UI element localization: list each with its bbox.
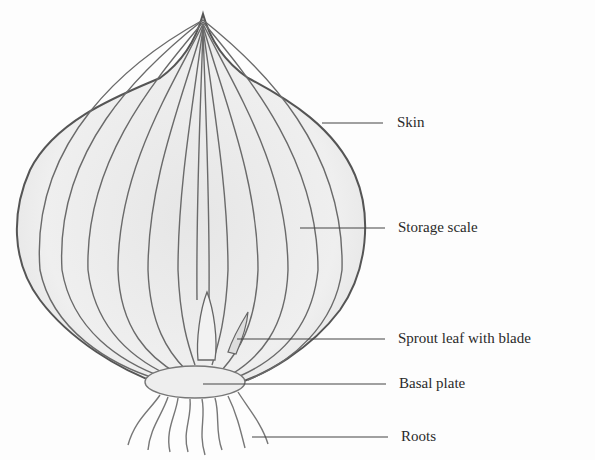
label-basal-plate: Basal plate <box>399 376 465 391</box>
label-roots: Roots <box>401 429 436 444</box>
onion-diagram: Skin Storage scale Sprout leaf with blad… <box>0 0 595 460</box>
label-storage-scale: Storage scale <box>398 220 478 235</box>
roots-lines <box>128 392 268 455</box>
label-sprout-leaf: Sprout leaf with blade <box>398 331 531 346</box>
label-skin: Skin <box>397 115 425 130</box>
basal-plate-shape <box>145 366 245 398</box>
onion-illustration <box>0 0 595 460</box>
